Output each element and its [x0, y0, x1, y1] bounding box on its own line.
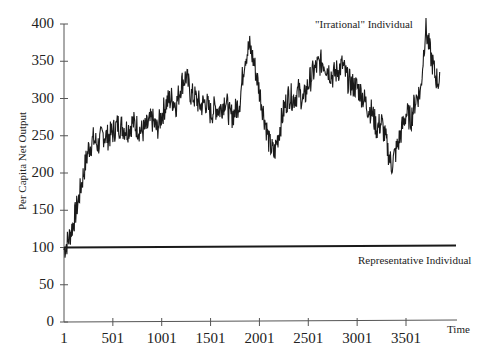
irrational-individual-line: [64, 18, 440, 258]
y-tick-label: 50: [14, 276, 54, 293]
x-tick-label: 501: [91, 330, 135, 347]
y-tick-label: 0: [14, 313, 54, 330]
y-axis-label: Per Capita Net Output: [16, 101, 28, 221]
y-tick-label: 350: [14, 52, 54, 69]
x-tick-label: 1001: [140, 330, 184, 347]
x-tick-label: 2501: [286, 330, 330, 347]
x-tick-label: 3501: [384, 330, 428, 347]
x-tick-label: 1501: [189, 330, 233, 347]
x-tick-label: 1: [42, 330, 86, 347]
axes: [60, 24, 457, 326]
x-tick-label: 2001: [237, 330, 281, 347]
x-axis-label: Time: [447, 323, 470, 335]
x-tick-label: 3001: [335, 330, 379, 347]
y-tick-label: 400: [14, 15, 54, 32]
representative-individual-annotation: Representative Individual: [358, 254, 471, 266]
representative-individual-line: [64, 246, 456, 248]
chart-canvas: [0, 0, 483, 364]
irrational-individual-annotation: "Irrational" Individual: [315, 18, 413, 30]
y-tick-label: 100: [14, 239, 54, 256]
